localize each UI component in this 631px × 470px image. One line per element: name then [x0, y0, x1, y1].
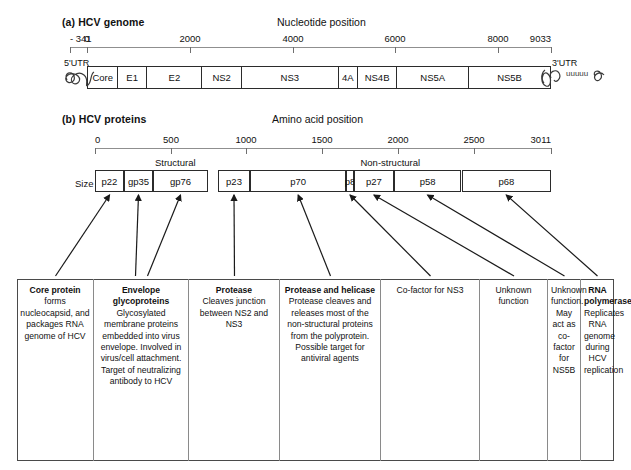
amino-acid-axis-line [95, 148, 551, 149]
genome-segment-ns5b: NS5B [468, 66, 551, 89]
protein-box-p70: p70 [250, 170, 346, 192]
axis-tick [70, 47, 71, 53]
description-arrow [428, 195, 565, 276]
size-label: Size [75, 178, 93, 189]
protein-box-p22: p22 [95, 170, 124, 192]
description-body: Replicates RNA genome during HCV replica… [584, 308, 611, 376]
axis-tick [498, 47, 499, 53]
description-heading: RNA polymerase [584, 285, 611, 308]
description-cell: Protease and helicaseProtease cleaves an… [280, 279, 381, 461]
description-cell: Unknown function [480, 279, 548, 461]
description-arrow [136, 195, 139, 276]
axis-tick [551, 47, 552, 53]
axis-tick-label: 3011 [531, 134, 551, 145]
description-body: Unknown function. May act as co-factor f… [551, 285, 577, 376]
description-heading: Core protein [20, 285, 90, 296]
protein-box-p8: p8 [346, 170, 354, 192]
protein-box-gp76: gp76 [153, 170, 208, 192]
axis-tick [190, 47, 191, 53]
description-arrow [350, 195, 430, 276]
axis-tick-label: 2000 [179, 33, 200, 44]
three-prime-utr-label: 3'UTR [552, 58, 577, 68]
axis-tick [87, 47, 88, 53]
genome-segment-ns5a: NS5A [396, 66, 468, 89]
axis-tick-label: 8000 [487, 33, 508, 44]
genome-segment-4a: 4A [338, 66, 357, 89]
description-cell: ProteaseCleaves junction between NS2 and… [189, 279, 280, 461]
description-body: Glycosylated membrane proteins embedded … [97, 308, 185, 388]
axis-tick-label: 1000 [235, 134, 256, 145]
panel-a-axis-caption: Nucleotide position [277, 16, 366, 28]
axis-tick [95, 148, 96, 154]
axis-tick [293, 47, 294, 53]
axis-tick-label: 0 [95, 134, 100, 145]
axis-tick-label: 500 [163, 134, 179, 145]
protein-box-p23: p23 [218, 170, 251, 192]
genome-segment-ns3: NS3 [241, 66, 338, 89]
axis-tick-label: 1500 [311, 134, 332, 145]
panel-b-caption: (b) HCV proteins [62, 113, 146, 125]
description-body: Cleaves junction between NS2 and NS3 [192, 296, 276, 330]
poly-u-tail-label: uuuuu [566, 69, 588, 78]
description-cell: RNA polymeraseReplicates RNA genome duri… [581, 279, 614, 461]
axis-tick-label: 9033 [530, 33, 551, 44]
description-body: Unknown function [483, 285, 544, 308]
genome-segment-ns2: NS2 [201, 66, 241, 89]
description-cell: Envelope glycoproteinsGlycosylated membr… [94, 279, 189, 461]
axis-tick-label: 2500 [463, 134, 484, 145]
figure-canvas: (a) HCV genome Nucleotide position - 341… [0, 0, 631, 470]
five-prime-utr-label: 5'UTR [64, 58, 89, 68]
description-cell: Unknown function. May act as co-factor f… [548, 279, 581, 461]
axis-tick-label: 0 [84, 33, 89, 44]
genome-segment-row: CoreE1E2NS2NS34ANS4BNS5ANS5B [87, 66, 551, 89]
axis-tick [395, 47, 396, 53]
arrow-group [56, 195, 598, 276]
description-heading: Protease and helicase [283, 285, 377, 296]
protein-box-gp35: gp35 [124, 170, 153, 192]
three-prime-utr-squiggle [542, 70, 604, 86]
description-cell: Core proteinforms nucleocapsid, and pack… [17, 279, 94, 461]
axis-tick [551, 148, 552, 154]
description-arrow [298, 195, 330, 276]
description-body: Co-factor for NS3 [384, 285, 476, 296]
description-arrow [374, 195, 514, 276]
description-arrow [148, 195, 181, 276]
description-body: Protease cleaves and releases most of th… [283, 296, 377, 364]
axis-tick [474, 148, 475, 154]
description-cell: Co-factor for NS3 [381, 279, 480, 461]
axis-tick-label: 6000 [384, 33, 405, 44]
description-heading: Protease [192, 285, 276, 296]
panel-a-caption: (a) HCV genome [62, 16, 145, 28]
description-body: forms nucleocapsid, and packages RNA gen… [20, 296, 90, 342]
group-label: Structural [155, 157, 196, 168]
group-label: Non-structural [360, 157, 420, 168]
axis-tick-label: 2000 [387, 134, 408, 145]
description-arrow [234, 195, 235, 276]
axis-tick [398, 148, 399, 154]
axis-tick [322, 148, 323, 154]
protein-box-p68: p68 [462, 170, 551, 192]
genome-segment-e2: E2 [146, 66, 201, 89]
protein-box-p27: p27 [354, 170, 393, 192]
description-arrow [506, 195, 597, 276]
protein-box-p58: p58 [394, 170, 462, 192]
genome-segment-ns4b: NS4B [357, 66, 397, 89]
genome-segment-core: Core [87, 66, 116, 89]
description-heading: Envelope glycoproteins [97, 285, 185, 308]
description-arrow [56, 195, 110, 276]
axis-tick-label: 4000 [282, 33, 303, 44]
axis-tick [246, 148, 247, 154]
axis-tick [171, 148, 172, 154]
panel-b-axis-caption: Amino acid position [272, 113, 363, 125]
nucleotide-axis-line [70, 47, 551, 48]
genome-segment-e1: E1 [117, 66, 147, 89]
